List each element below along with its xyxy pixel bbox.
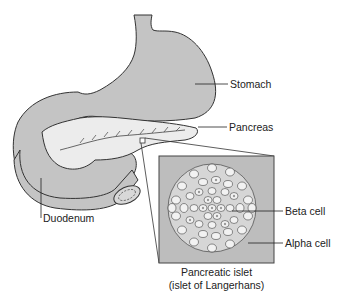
label-beta-cell: Beta cell bbox=[285, 206, 325, 217]
islet-marker bbox=[140, 138, 145, 143]
inset-caption-line2: (islet of Langerhans) bbox=[159, 279, 274, 292]
inset-caption-line1: Pancreatic islet bbox=[159, 266, 274, 279]
label-pancreas: Pancreas bbox=[229, 122, 273, 133]
anatomy-diagram bbox=[0, 0, 342, 300]
label-alpha-cell: Alpha cell bbox=[285, 238, 331, 249]
label-stomach: Stomach bbox=[230, 79, 271, 90]
label-duodenum: Duodenum bbox=[43, 213, 94, 224]
inset-caption: Pancreatic islet (islet of Langerhans) bbox=[159, 266, 274, 292]
